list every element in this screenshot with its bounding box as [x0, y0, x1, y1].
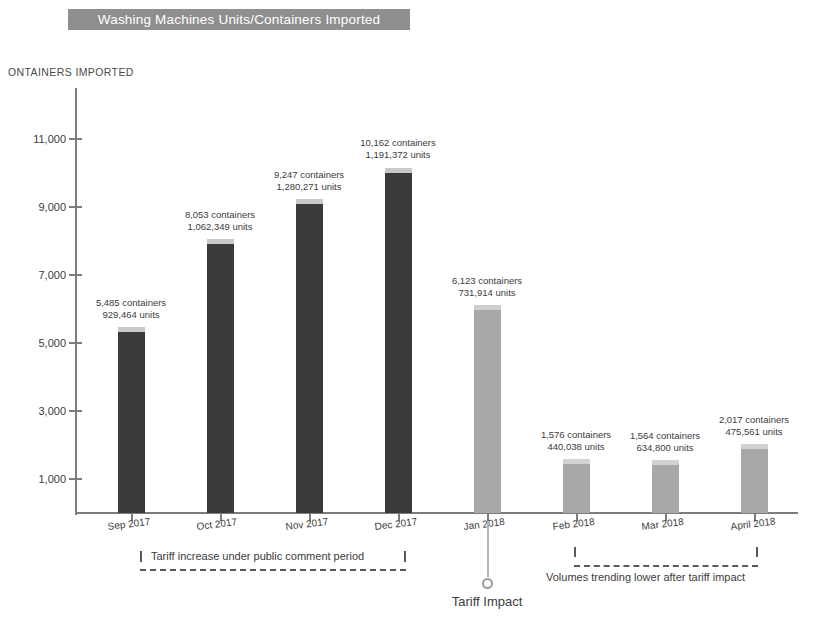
tariff-impact-circle-icon	[482, 578, 493, 589]
bar-value-label: 5,485 containers929,464 units	[96, 297, 166, 321]
bracket-tick-left-start	[140, 551, 142, 562]
y-axis-line	[75, 88, 77, 515]
bracket-dashed-line-right	[574, 565, 758, 567]
bar-label-units: 634,800 units	[630, 442, 700, 454]
tariff-impact-leader-line	[487, 521, 489, 577]
bar-body	[385, 173, 412, 514]
bar-label-units: 475,561 units	[719, 426, 789, 438]
bar-label-containers: 10,162 containers	[360, 137, 436, 149]
bar-value-label: 2,017 containers475,561 units	[719, 414, 789, 438]
y-axis-tick-label: 9,000	[8, 201, 66, 213]
bar-value-label: 6,123 containers731,914 units	[452, 275, 522, 299]
x-axis-tick-label: April 2018	[730, 516, 776, 532]
x-axis-tick-label: Mar 2018	[641, 516, 684, 532]
bar[interactable]	[741, 444, 768, 513]
bar-value-label: 1,576 containers440,038 units	[541, 429, 611, 453]
bar[interactable]	[296, 199, 323, 513]
bracket-tick-left-end	[404, 551, 406, 562]
y-axis-tick	[69, 342, 82, 344]
bar-body	[652, 465, 679, 513]
bracket-dashed-line-left	[140, 569, 406, 571]
x-axis-tick-label: Oct 2017	[196, 516, 238, 532]
bar-label-containers: 8,053 containers	[185, 209, 255, 221]
bar-label-containers: 1,576 containers	[541, 429, 611, 441]
bar-value-label: 9,247 containers1,280,271 units	[274, 169, 344, 193]
annotation-tariff-comment-period: Tariff increase under public comment per…	[151, 550, 364, 562]
bar-value-label: 1,564 containers634,800 units	[630, 430, 700, 454]
y-axis-tick-label: 5,000	[8, 337, 66, 349]
bar-body	[207, 244, 234, 513]
bar-label-containers: 6,123 containers	[452, 275, 522, 287]
bar-body	[474, 310, 501, 513]
bar[interactable]	[385, 168, 412, 514]
bar-label-containers: 2,017 containers	[719, 414, 789, 426]
bar-body	[741, 449, 768, 513]
bar[interactable]	[563, 459, 590, 513]
bar-label-units: 1,280,271 units	[274, 181, 344, 193]
bar-body	[563, 464, 590, 513]
y-axis-tick-label: 7,000	[8, 269, 66, 281]
bar-value-label: 10,162 containers1,191,372 units	[360, 137, 436, 161]
chart-plot-area: 11,0009,0007,0005,0003,0001,000 Sep 2017…	[0, 0, 814, 625]
x-axis-tick-label: Sep 2017	[107, 516, 151, 532]
y-axis-tick	[69, 410, 82, 412]
bar[interactable]	[474, 305, 501, 513]
bar-label-containers: 1,564 containers	[630, 430, 700, 442]
y-axis-tick-label: 11,000	[8, 133, 66, 145]
bar-label-containers: 9,247 containers	[274, 169, 344, 181]
bar[interactable]	[207, 239, 234, 513]
x-axis-tick-label: Dec 2017	[374, 516, 418, 532]
y-axis-tick-label: 1,000	[8, 473, 66, 485]
y-axis-tick-label: 3,000	[8, 405, 66, 417]
bar-label-units: 731,914 units	[452, 287, 522, 299]
x-axis-tick-label: Feb 2018	[552, 516, 595, 532]
bracket-tick-right-end	[756, 547, 758, 557]
bar-label-containers: 5,485 containers	[96, 297, 166, 309]
bar-value-label: 8,053 containers1,062,349 units	[185, 209, 255, 233]
y-axis-tick	[69, 478, 82, 480]
bar-body	[296, 204, 323, 513]
x-axis-tick-label: Nov 2017	[285, 516, 329, 532]
y-axis-tick	[69, 274, 82, 276]
y-axis-tick	[69, 206, 82, 208]
bracket-tick-right-start	[574, 547, 576, 557]
bar-label-units: 1,191,372 units	[360, 149, 436, 161]
x-axis-tick-label: Jan 2018	[463, 516, 505, 532]
bar[interactable]	[652, 460, 679, 513]
bar-label-units: 1,062,349 units	[185, 221, 255, 233]
annotation-volumes-trending-lower: Volumes trending lower after tariff impa…	[546, 571, 745, 583]
bar-label-units: 929,464 units	[96, 309, 166, 321]
annotation-tariff-impact: Tariff Impact	[452, 594, 523, 609]
bar-label-units: 440,038 units	[541, 441, 611, 453]
bar-body	[118, 332, 145, 513]
bar[interactable]	[118, 327, 145, 513]
x-axis-line	[75, 512, 798, 514]
y-axis-tick	[69, 138, 82, 140]
